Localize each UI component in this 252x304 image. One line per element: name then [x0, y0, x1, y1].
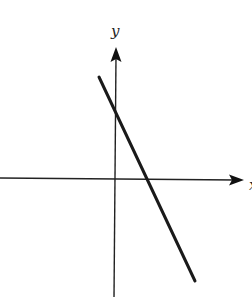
coordinate-diagram: x y [0, 0, 252, 304]
x-axis [0, 178, 236, 180]
x-axis-label: x [249, 176, 252, 194]
y-axis [114, 56, 116, 297]
y-axis-label: y [110, 22, 120, 40]
